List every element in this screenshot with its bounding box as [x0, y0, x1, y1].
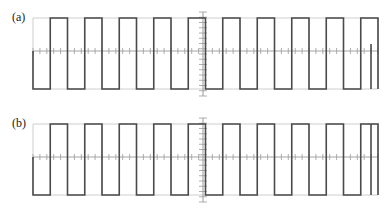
waveform-trace: [33, 18, 378, 89]
panel-a: (a): [0, 0, 386, 106]
panel-a-scope: [0, 0, 386, 106]
panel-b-scope: [0, 106, 386, 212]
panel-b: (b): [0, 106, 386, 212]
panel-a-waveform-svg: [0, 0, 386, 106]
figure-two-square-wave-traces: (a) (b): [0, 0, 386, 212]
panel-b-waveform-svg: [0, 106, 386, 212]
waveform-trace: [33, 124, 378, 195]
